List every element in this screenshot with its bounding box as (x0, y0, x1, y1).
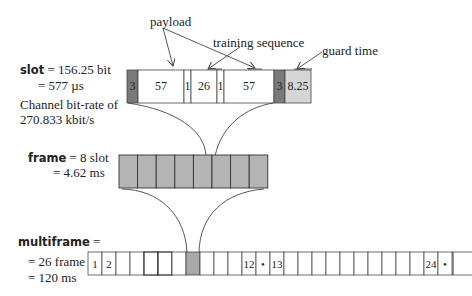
slot-field-label: 3 (130, 79, 136, 93)
multiframe-cell (382, 252, 396, 275)
multiframe-cell-label: 24 (426, 258, 438, 270)
multiframe-cell-label: 12 (244, 258, 255, 270)
multiframe-cell (340, 252, 354, 275)
slot-field-label: 26 (198, 79, 210, 93)
multiframe-cell-label: 13 (272, 258, 284, 270)
frame-connector-right (199, 189, 264, 252)
payload-arrow-right (163, 28, 255, 68)
multiframe-cell (284, 252, 298, 275)
multiframe-cell (354, 252, 368, 275)
multiframe-cell-label: 2 (106, 258, 112, 270)
multiframe-cell (312, 252, 326, 275)
payload-arrow-left (163, 28, 173, 66)
frame-slot (231, 155, 250, 188)
frame-slot (249, 155, 268, 188)
slot-field-label: 3 (277, 79, 283, 93)
multiframe-cell (200, 252, 214, 275)
slot-connector-left (128, 103, 206, 156)
multiframe-cell (172, 252, 186, 275)
multiframe-cell-label: • (443, 258, 447, 270)
frame-slot (175, 155, 194, 188)
frame-connector-left (122, 189, 187, 252)
slot-field-label: 57 (243, 79, 255, 93)
slot-connector-right (215, 103, 273, 156)
multiframe-cell-label: • (261, 258, 265, 270)
gsm-frame-diagram: 35712615738.25 1212•1324• (0, 0, 472, 296)
frame-slot (212, 155, 231, 188)
slot-field-label: 1 (218, 79, 224, 93)
slot-bar: 35712615738.25 (127, 70, 311, 103)
multiframe-cell (326, 252, 340, 275)
multiframe-cell (298, 252, 312, 275)
multiframe-cell (396, 252, 410, 275)
multiframe-cell (368, 252, 382, 275)
slot-field-label: 1 (185, 79, 191, 93)
frame-slot (119, 155, 138, 188)
multiframe-cell (130, 252, 144, 275)
training-arrow (208, 47, 240, 69)
multiframe-cell (158, 252, 172, 275)
slot-field-label: 8.25 (288, 79, 309, 93)
slot-field-label: 57 (155, 79, 167, 93)
multiframe-cell-highlighted (186, 252, 200, 275)
multiframe-cell-label: 1 (92, 258, 98, 270)
multiframe-cell (410, 252, 424, 275)
guard-arrow (297, 52, 322, 69)
multiframe-cell (214, 252, 228, 275)
multiframe-bar: 1212•1324• (88, 252, 472, 275)
frame-slot (193, 155, 212, 188)
frame-slot (156, 155, 175, 188)
multiframe-cell (144, 252, 158, 275)
multiframe-cell (116, 252, 130, 275)
frame-slot (138, 155, 157, 188)
multiframe-cell (228, 252, 242, 275)
frame-bar (119, 155, 268, 188)
